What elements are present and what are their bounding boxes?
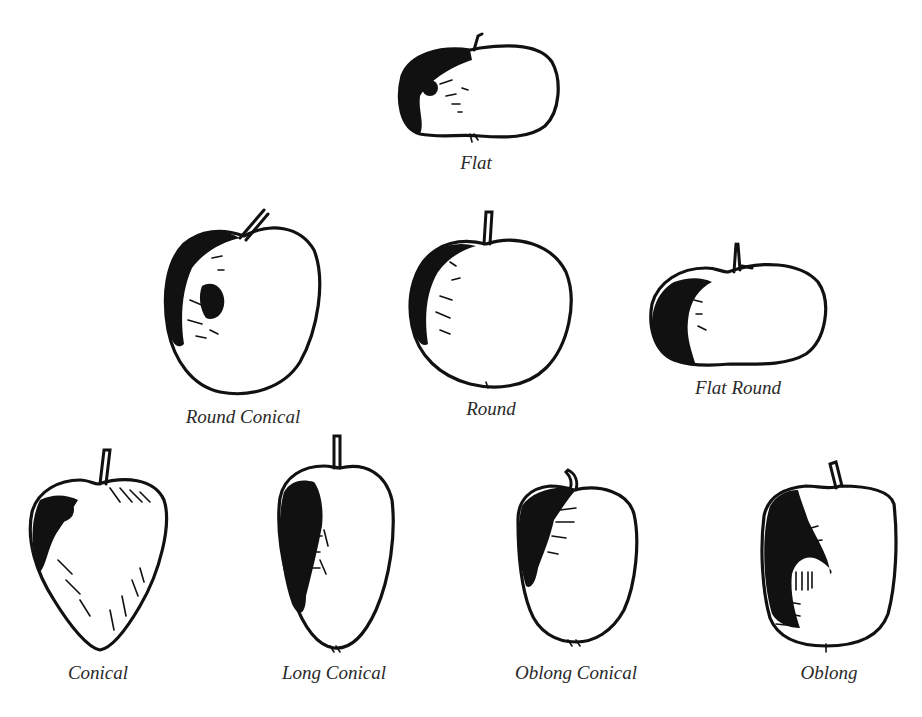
label-oblong: Oblong xyxy=(801,662,858,684)
apple-oblong: Oblong xyxy=(0,0,922,717)
apple-oblong-drawing xyxy=(0,0,922,717)
